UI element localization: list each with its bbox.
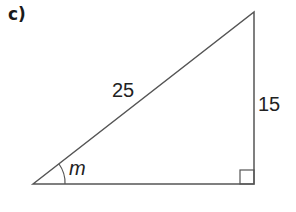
side-label: 15 xyxy=(258,93,280,115)
right-angle-marker xyxy=(240,170,254,184)
right-triangle-diagram: 25 15 m xyxy=(0,0,296,212)
hypotenuse-label: 25 xyxy=(112,79,134,101)
angle-arc xyxy=(59,164,65,184)
triangle-shape xyxy=(33,12,254,184)
angle-label: m xyxy=(69,157,86,179)
